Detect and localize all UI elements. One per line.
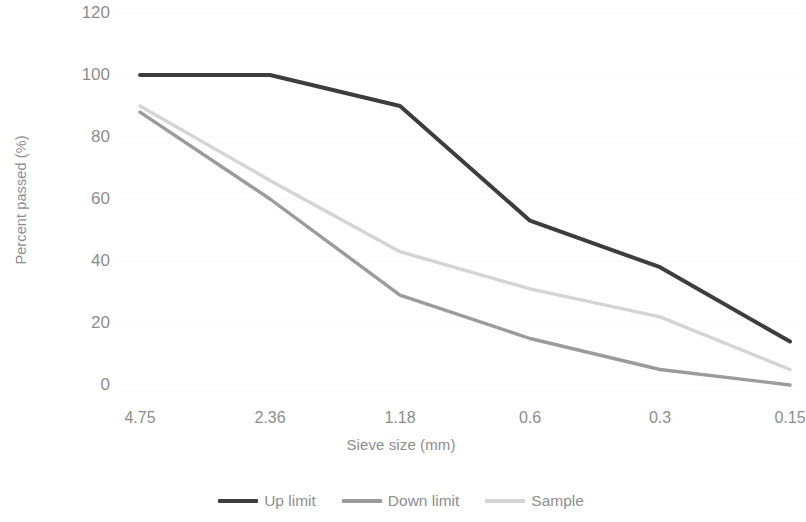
series-lines bbox=[140, 75, 790, 385]
plot-area bbox=[0, 0, 802, 400]
legend-line-swatch bbox=[485, 499, 525, 503]
legend-item[interactable]: Up limit bbox=[218, 493, 316, 509]
gridlines bbox=[118, 13, 800, 385]
x-tick-label: 4.75 bbox=[124, 410, 155, 426]
legend-label: Up limit bbox=[264, 493, 316, 509]
series-line bbox=[140, 112, 790, 385]
x-tick-label: 1.18 bbox=[384, 410, 415, 426]
y-tick-label: 20 bbox=[50, 314, 110, 331]
legend-line-swatch bbox=[218, 499, 258, 503]
legend-label: Down limit bbox=[388, 493, 459, 509]
y-tick-label: 120 bbox=[50, 4, 110, 21]
y-axis-ticks: 020406080100120 bbox=[30, 0, 110, 400]
y-tick-label: 80 bbox=[50, 128, 110, 145]
x-tick-label: 0.15 bbox=[774, 410, 805, 426]
series-line bbox=[140, 75, 790, 342]
y-tick-label: 60 bbox=[50, 190, 110, 207]
y-tick-label: 100 bbox=[50, 66, 110, 83]
legend-label: Sample bbox=[531, 493, 584, 509]
x-tick-label: 0.6 bbox=[519, 410, 541, 426]
y-tick-label: 40 bbox=[50, 252, 110, 269]
x-tick-label: 2.36 bbox=[254, 410, 285, 426]
chart-legend: Up limitDown limitSample bbox=[0, 486, 802, 516]
y-axis-title: Percent passed (%) bbox=[13, 105, 29, 295]
legend-item[interactable]: Down limit bbox=[342, 493, 459, 509]
series-line bbox=[140, 106, 790, 370]
legend-item[interactable]: Sample bbox=[485, 493, 584, 509]
x-tick-label: 0.3 bbox=[649, 410, 671, 426]
y-tick-label: 0 bbox=[50, 376, 110, 393]
x-axis-ticks: 4.752.361.180.60.30.15 bbox=[0, 396, 802, 426]
x-axis-title: Sieve size (mm) bbox=[0, 436, 802, 453]
legend-line-swatch bbox=[342, 499, 382, 503]
